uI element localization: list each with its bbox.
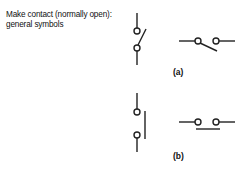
symbol-a-vertical-bottom-terminal — [134, 45, 140, 51]
label-a: (a) — [173, 67, 183, 77]
symbol-b-vertical-bottom-terminal — [134, 132, 140, 138]
symbol-b-vertical — [134, 93, 145, 152]
symbol-b-horizontal-left-terminal — [195, 119, 201, 125]
symbol-a-vertical-top-terminal — [134, 28, 140, 34]
symbol-a-vertical — [134, 13, 146, 65]
label-b: (b) — [173, 151, 184, 161]
symbol-b-horizontal-right-terminal — [213, 119, 219, 125]
symbol-a-horizontal — [179, 38, 235, 51]
symbol-b-horizontal — [179, 119, 235, 129]
contact-symbols-diagram — [0, 0, 249, 174]
symbol-b-vertical-top-terminal — [134, 109, 140, 115]
symbol-a-horizontal-right-terminal — [213, 38, 219, 44]
